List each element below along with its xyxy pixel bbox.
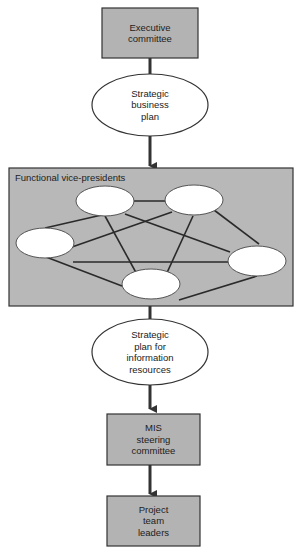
vp-ellipse-4 [228,246,286,276]
executive-committee-label: Executivecommittee [102,8,198,58]
strategic-business-plan-label: Strategicbusinessplan [92,74,208,136]
strategic-plan-info-label: Strategicplan forinformationresources [92,319,208,385]
vp-ellipse-3 [16,228,74,258]
functional-vps-title: Functional vice-presidents [15,172,125,183]
vp-ellipse-1 [76,186,134,216]
vp-ellipse-5 [122,269,180,299]
mis-steering-committee-label: MISsteeringcommittee [107,414,200,465]
project-team-leaders-label: Projectteamleaders [107,496,200,546]
vp-ellipse-2 [165,185,223,215]
